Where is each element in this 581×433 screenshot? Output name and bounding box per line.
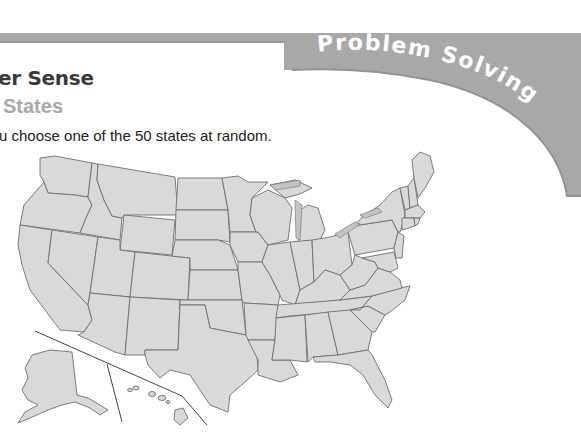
state-montana bbox=[97, 164, 178, 218]
state-florida bbox=[313, 350, 392, 408]
state-south-dakota bbox=[175, 210, 230, 242]
state-hawaii bbox=[128, 386, 189, 425]
contiguous-states bbox=[18, 152, 434, 412]
inset-divider-middle bbox=[107, 364, 122, 422]
state-new-mexico bbox=[125, 297, 180, 355]
header-rule bbox=[0, 33, 290, 42]
us-map bbox=[0, 140, 581, 433]
state-north-dakota bbox=[176, 178, 228, 210]
lesson-title: States bbox=[3, 95, 63, 118]
state-washington bbox=[40, 156, 92, 197]
state-kansas bbox=[188, 270, 242, 300]
section-title: er Sense bbox=[0, 66, 94, 90]
state-mississippi bbox=[272, 315, 307, 362]
state-colorado bbox=[130, 252, 190, 300]
state-rhode-island bbox=[414, 218, 420, 226]
state-alaska bbox=[18, 350, 108, 423]
state-wyoming bbox=[120, 215, 175, 255]
state-connecticut bbox=[402, 218, 415, 230]
problem-solving-page: Problem Solving er Sense States u choose… bbox=[0, 0, 581, 433]
state-arkansas bbox=[244, 303, 278, 340]
